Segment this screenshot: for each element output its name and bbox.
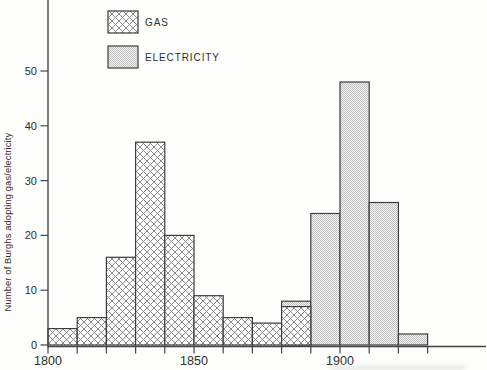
y-tick-label: 40 (25, 120, 37, 132)
x-tick-label: 1800 (34, 354, 62, 368)
x-tick-label: 1850 (180, 354, 208, 368)
axes-group: 01020304050180018501900 (25, 0, 486, 368)
legend-swatch-gas (108, 11, 138, 33)
chart-canvas: 01020304050180018501900 Number of Burghs… (0, 0, 487, 370)
y-tick-label: 50 (25, 65, 37, 77)
bars-group (48, 82, 428, 345)
legend-label-gas: GAS (145, 17, 169, 28)
electricity-bar (398, 334, 427, 345)
gas-bar (282, 307, 311, 345)
y-axis-title: Number of Burghs adopting gas/electricit… (3, 132, 13, 311)
gas-bar (252, 323, 281, 345)
gas-bar (48, 329, 77, 345)
scan-artifact (330, 366, 465, 370)
y-tick-label: 20 (25, 229, 37, 241)
legend-label-electricity: ELECTRICITY (145, 52, 220, 63)
gas-bar (106, 257, 135, 345)
legend: GAS ELECTRICITY (108, 11, 220, 68)
electricity-bar (340, 82, 369, 345)
electricity-bar (311, 214, 340, 346)
y-tick-label: 10 (25, 284, 37, 296)
legend-swatch-electricity (108, 46, 138, 68)
y-tick-label: 0 (31, 339, 37, 351)
electricity-bar (369, 203, 398, 346)
gas-bar (165, 235, 194, 345)
gas-bar (77, 318, 106, 345)
y-tick-label: 30 (25, 175, 37, 187)
gas-bar (223, 318, 252, 345)
gas-bar (194, 296, 223, 345)
bar-chart: 01020304050180018501900 Number of Burghs… (0, 0, 487, 370)
gas-bar (136, 142, 165, 345)
